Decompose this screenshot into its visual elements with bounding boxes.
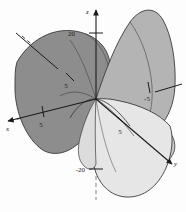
z-tick-label-20: 20: [68, 30, 76, 38]
surface-plot-figure: z x y 20 -20 5 5 -5 5: [0, 0, 186, 212]
z-axis-label: z: [85, 8, 89, 16]
x-tick-label-5: 5: [39, 121, 43, 129]
y-tick-label-neg5: -5: [144, 95, 150, 103]
y-tick-label-5: 5: [118, 128, 122, 136]
x-axis-label: x: [5, 125, 10, 133]
y-axis-label: y: [173, 160, 178, 168]
z-tick-label-neg20: -20: [76, 166, 86, 174]
y-tick-label-5-upper: 5: [64, 82, 68, 90]
plot-canvas: z x y 20 -20 5 5 -5 5: [0, 0, 186, 212]
